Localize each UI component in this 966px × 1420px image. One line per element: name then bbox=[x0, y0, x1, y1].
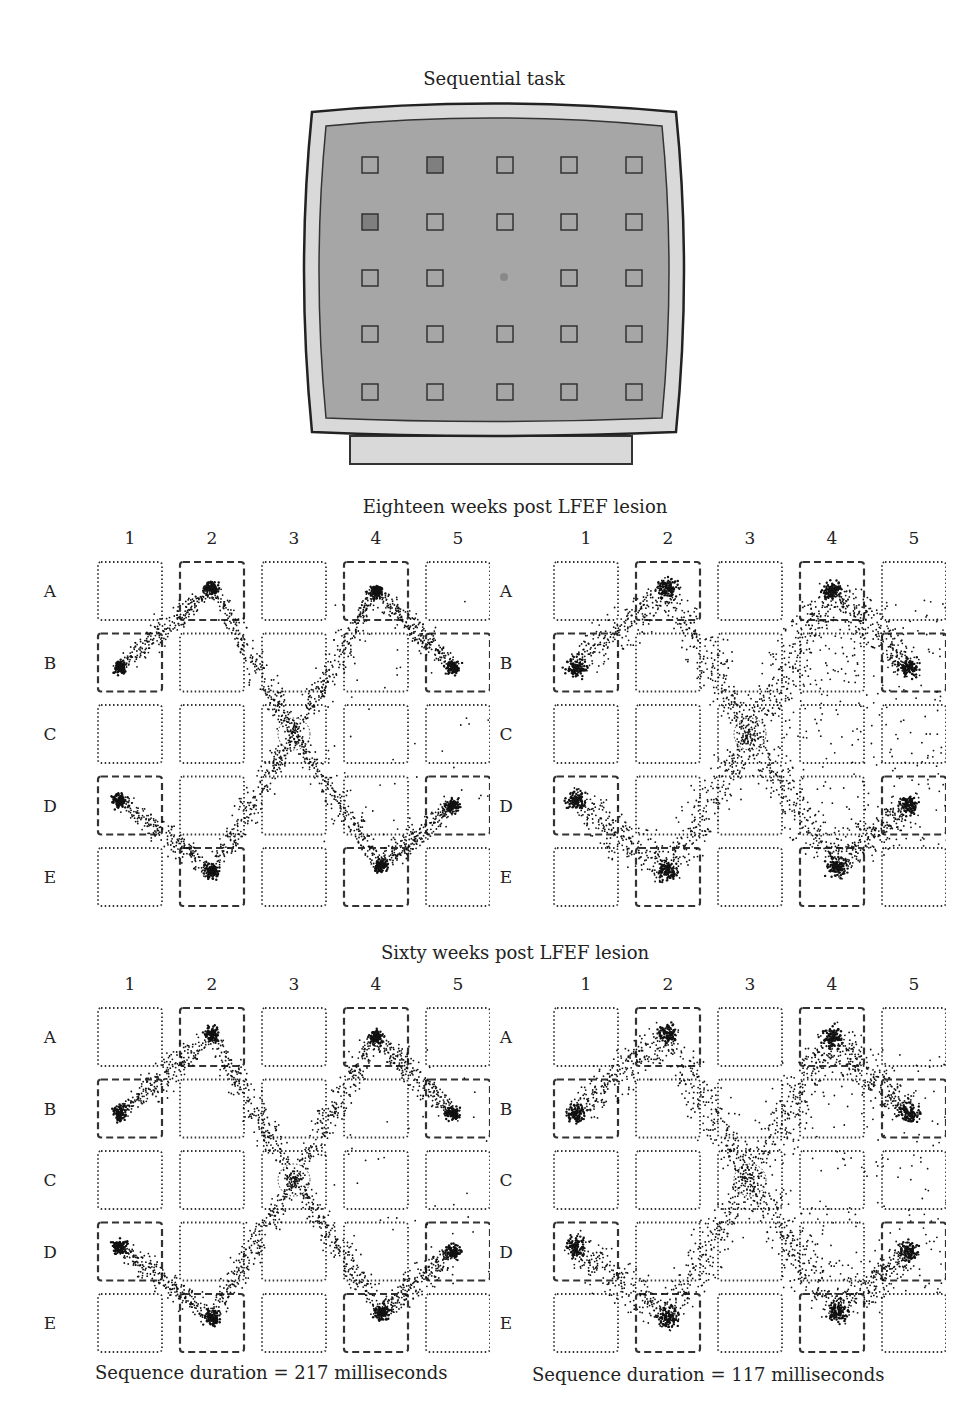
trajectory-dot bbox=[877, 1263, 879, 1265]
endpoint-dot bbox=[126, 1108, 128, 1110]
endpoint-dot bbox=[919, 1112, 921, 1114]
trajectory-dot bbox=[854, 1295, 856, 1297]
trajectory-dot bbox=[798, 1109, 800, 1111]
trajectory-dot bbox=[256, 653, 258, 655]
trajectory-dot bbox=[425, 1277, 427, 1279]
endpoint-dot bbox=[825, 1029, 827, 1031]
trajectory-dot bbox=[243, 618, 245, 620]
trajectory-dot bbox=[435, 1106, 437, 1108]
endpoint-dot bbox=[446, 1246, 448, 1248]
trajectory-dot bbox=[120, 811, 122, 813]
trajectory-dot bbox=[327, 1108, 329, 1110]
trajectory-dot bbox=[407, 1060, 409, 1062]
trajectory-dot bbox=[720, 662, 722, 664]
trajectory-dot bbox=[225, 1050, 227, 1052]
trajectory-dot bbox=[646, 1055, 648, 1057]
trajectory-dot bbox=[811, 625, 813, 627]
trajectory-dot bbox=[809, 816, 811, 818]
trajectory-dot bbox=[204, 1304, 206, 1306]
trajectory-dot bbox=[652, 1033, 654, 1035]
trajectory-dot bbox=[354, 637, 356, 639]
scatter-dot bbox=[848, 1068, 850, 1070]
trajectory-dot bbox=[147, 636, 149, 638]
scatter-dot bbox=[883, 1205, 885, 1207]
trajectory-dot bbox=[414, 1078, 416, 1080]
trajectory-dot bbox=[320, 681, 322, 683]
trajectory-dot bbox=[383, 1036, 385, 1038]
trajectory-dot bbox=[146, 815, 148, 817]
scatter-dot bbox=[826, 621, 828, 623]
endpoint-dot bbox=[576, 1246, 578, 1248]
trajectory-dot bbox=[806, 649, 808, 651]
scatter-dot bbox=[908, 1112, 910, 1114]
trajectory-dot bbox=[786, 1225, 788, 1227]
trajectory-dot bbox=[770, 699, 772, 701]
trajectory-dot bbox=[850, 1284, 852, 1286]
trajectory-dot bbox=[713, 1220, 715, 1222]
trajectory-dot bbox=[642, 1300, 644, 1302]
trajectory-dot bbox=[707, 1135, 709, 1137]
scatter-dot bbox=[819, 1200, 821, 1202]
endpoint-dot bbox=[446, 1115, 448, 1117]
row-label: E bbox=[500, 1313, 512, 1333]
trajectory-dot bbox=[339, 650, 341, 652]
trajectory-dot bbox=[653, 1297, 655, 1299]
trajectory-dot bbox=[183, 618, 185, 620]
endpoint-dot bbox=[568, 799, 570, 801]
trajectory-dot bbox=[224, 613, 226, 615]
trajectory-dot bbox=[188, 1063, 190, 1065]
trajectory-dot bbox=[440, 1096, 442, 1098]
trajectory-dot bbox=[404, 1065, 406, 1067]
scatter-dot bbox=[408, 1128, 410, 1130]
trajectory-dot bbox=[886, 621, 888, 623]
trajectory-dot bbox=[281, 1143, 283, 1145]
trajectory-dot bbox=[391, 1296, 393, 1298]
trajectory-dot bbox=[886, 1080, 888, 1082]
trajectory-dot bbox=[402, 1071, 404, 1073]
scatter-dot bbox=[797, 1146, 799, 1148]
scatter-dot bbox=[899, 1167, 901, 1169]
trajectory-points bbox=[564, 1021, 946, 1331]
trajectory-dot bbox=[869, 1082, 871, 1084]
grid-box bbox=[426, 705, 490, 763]
trajectory-dot bbox=[280, 771, 282, 773]
trajectory-dot bbox=[248, 1100, 250, 1102]
endpoint-dot bbox=[370, 594, 372, 596]
endpoint-dot bbox=[449, 811, 451, 813]
trajectory-dot bbox=[700, 1243, 702, 1245]
endpoint-dot bbox=[675, 863, 677, 865]
trajectory-dot bbox=[343, 824, 345, 826]
endpoint-dot bbox=[825, 591, 827, 593]
trajectory-dot bbox=[801, 629, 803, 631]
trajectory-dot bbox=[875, 829, 877, 831]
trajectory-dot bbox=[361, 826, 363, 828]
trajectory-dot bbox=[738, 755, 740, 757]
scatter-dot bbox=[331, 777, 333, 779]
trajectory-dot bbox=[136, 666, 138, 668]
endpoint-dot bbox=[450, 1255, 452, 1257]
trajectory-dot bbox=[888, 1262, 890, 1264]
trajectory-dot bbox=[696, 633, 698, 635]
trajectory-dot bbox=[881, 1097, 883, 1099]
trajectory-dot bbox=[796, 803, 798, 805]
trajectory-dot bbox=[426, 654, 428, 656]
trajectory-dot bbox=[797, 1097, 799, 1099]
trajectory-dot bbox=[680, 1284, 682, 1286]
trajectory-dot bbox=[277, 719, 279, 721]
trajectory-dot bbox=[896, 823, 898, 825]
trajectory-dot bbox=[770, 1198, 772, 1200]
endpoint-dot bbox=[578, 1114, 580, 1116]
trajectory-dot bbox=[284, 731, 286, 733]
trajectory-dot bbox=[757, 1140, 759, 1142]
trajectory-dot bbox=[397, 1056, 399, 1058]
trajectory-dot bbox=[619, 1273, 621, 1275]
trajectory-dot bbox=[216, 852, 218, 854]
trajectory-dot bbox=[345, 1252, 347, 1254]
trajectory-dot bbox=[441, 817, 443, 819]
trajectory-dot bbox=[392, 862, 394, 864]
endpoint-dot bbox=[580, 1248, 582, 1250]
trajectory-dot bbox=[732, 761, 734, 763]
scatter-dot bbox=[791, 1287, 793, 1289]
trajectory-dot bbox=[859, 1289, 861, 1291]
trajectory-dot bbox=[657, 1055, 659, 1057]
